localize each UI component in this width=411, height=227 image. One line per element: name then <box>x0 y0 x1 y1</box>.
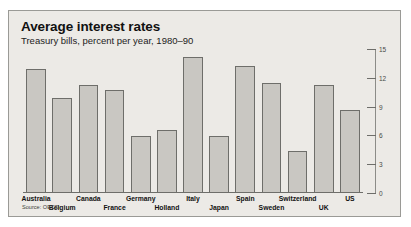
bar <box>314 85 334 193</box>
x-axis-labels: AustraliaBelgiumCanadaFranceGermanyHolla… <box>23 195 363 217</box>
y-tick <box>367 107 376 108</box>
bar-slot <box>232 49 258 193</box>
source-note: Source: OECD <box>22 204 59 211</box>
y-tick <box>367 49 376 50</box>
chart-figure: Average interest rates Treasury bills, p… <box>8 10 401 217</box>
chart-header: Average interest rates Treasury bills, p… <box>21 19 351 47</box>
bar-slot <box>337 49 363 193</box>
bar <box>288 151 308 193</box>
y-tick-label: 6 <box>379 132 383 139</box>
chart-subtitle: Treasury bills, percent per year, 1980–9… <box>21 35 351 47</box>
bar-slot <box>23 49 49 193</box>
plot-area <box>23 49 363 193</box>
bar <box>340 110 360 193</box>
bar <box>79 85 99 193</box>
bar <box>183 57 203 193</box>
x-tick-label: France <box>85 204 145 212</box>
bar-slot <box>154 49 180 193</box>
bar <box>131 136 151 193</box>
bar-slot <box>128 49 154 193</box>
x-tick-label: Spain <box>215 195 275 203</box>
x-tick-label: UK <box>294 204 354 212</box>
y-tick-label: 15 <box>379 46 386 53</box>
y-tick <box>367 164 376 165</box>
x-tick-label: Germany <box>111 195 171 203</box>
x-tick-label: Holland <box>137 204 197 212</box>
bar <box>157 130 177 193</box>
y-tick-label: 12 <box>379 74 386 81</box>
bar-slot <box>49 49 75 193</box>
y-tick <box>367 78 376 79</box>
x-tick-label: US <box>320 195 380 203</box>
bar-slot <box>180 49 206 193</box>
y-axis-line <box>375 49 376 193</box>
x-tick-label: Japan <box>189 204 249 212</box>
bar <box>105 90 125 193</box>
bar <box>52 98 72 193</box>
bar <box>209 136 229 193</box>
x-tick-label: Sweden <box>241 204 301 212</box>
y-axis: 03691215 <box>363 49 401 193</box>
x-tick-label: Canada <box>58 195 118 203</box>
bar-slot <box>311 49 337 193</box>
bar <box>235 66 255 193</box>
x-tick-label: Italy <box>163 195 223 203</box>
bar <box>262 83 282 193</box>
bar <box>26 69 46 193</box>
x-tick-label: Australia <box>6 195 66 203</box>
bar-slot <box>206 49 232 193</box>
bar-slot <box>75 49 101 193</box>
bar-slot <box>258 49 284 193</box>
y-tick-label: 9 <box>379 103 383 110</box>
chart-title: Average interest rates <box>21 19 351 34</box>
x-tick-label: Switzerland <box>268 195 328 203</box>
y-tick <box>367 135 376 136</box>
y-tick <box>367 193 376 194</box>
y-tick-label: 3 <box>379 161 383 168</box>
bar-slot <box>101 49 127 193</box>
bar-slot <box>285 49 311 193</box>
